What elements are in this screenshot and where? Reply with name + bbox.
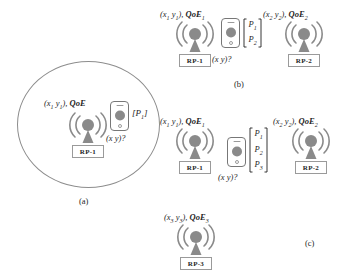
antenna-icon [167, 19, 223, 53]
rp-label-box: RP-1 [179, 54, 211, 67]
phone-screen-dot [115, 111, 125, 121]
rp1-coordinate-qoe-label: (x1 y1), QoE [44, 98, 86, 110]
phone-speaker [227, 22, 234, 23]
rp-node-rp1-c[interactable]: RP-1 [167, 126, 223, 174]
phone-speaker [116, 105, 123, 106]
smartphone-icon[interactable] [110, 101, 129, 131]
qoe-label: QoE [190, 212, 206, 222]
antenna-icon [283, 126, 339, 160]
coord-tail: ), [63, 98, 70, 108]
fingerprint-vector-a: [P1] [132, 108, 148, 120]
rp-node-rp3-c[interactable]: RP-3 [168, 222, 224, 270]
user-device-group-c[interactable] [227, 137, 246, 167]
panel-caption-c: (c) [305, 238, 314, 248]
smartphone-icon[interactable] [221, 18, 240, 48]
coord-x-sub: 1 [51, 104, 54, 110]
antenna-icon [167, 126, 223, 160]
bracket-right-icon [258, 18, 262, 48]
phone-home-button [229, 41, 233, 45]
fingerprint-vector-b: P1 P2 [243, 18, 262, 48]
unknown-position-query-c: (x y)? [218, 172, 238, 182]
rp-label-box: RP-1 [72, 145, 104, 158]
user-device-group-a[interactable] [110, 101, 129, 131]
unknown-position-query-a: (x y)? [106, 133, 126, 143]
rp-label-box: RP-1 [179, 161, 211, 174]
rp-node-rp2-c[interactable]: RP-2 [283, 126, 339, 174]
fingerprint-item: P1 [255, 129, 263, 140]
qoe-label: QoE [186, 9, 202, 19]
qoe-label: QoE [299, 116, 315, 126]
panel-caption-b: (b) [234, 79, 244, 89]
qoe-label: QoE [289, 9, 305, 19]
rp-label-box: RP-2 [288, 54, 320, 67]
coord-x-sub: 2 [270, 15, 273, 21]
fingerprint-item: P2 [255, 145, 263, 156]
coord-x: (x [160, 9, 167, 19]
coord-tail: ), [282, 9, 289, 19]
phone-screen-dot [232, 147, 242, 157]
rp-node-rp2-b[interactable]: RP-2 [276, 19, 332, 67]
coord-x: (x [273, 116, 280, 126]
coord-x: (x [164, 212, 171, 222]
antenna-icon [168, 222, 224, 256]
user-device-group-b[interactable] [221, 18, 240, 48]
bracket-right-icon [264, 127, 268, 173]
fingerprint-item: P2 [249, 35, 257, 46]
fingerprint-vector-c: P1 P2 P3 [249, 127, 268, 173]
phone-home-button [235, 160, 239, 164]
fingerprint-p-sub: 1 [141, 114, 144, 120]
coord-tail: ), [183, 212, 190, 222]
coord-tail: ), [179, 9, 186, 19]
coord-tail: ), [292, 116, 299, 126]
panel-caption-a: (a) [79, 196, 88, 206]
fingerprint-item: P1 [249, 20, 257, 31]
coord-x: (x [44, 98, 51, 108]
fingerprint-item: P3 [255, 160, 263, 171]
unknown-position-query-b: (x y)? [212, 54, 232, 64]
coord-x: (x [160, 116, 167, 126]
phone-home-button [118, 124, 122, 128]
phone-screen-dot [226, 28, 236, 38]
coord-x: (x [263, 9, 270, 19]
qoe-label: QoE [186, 116, 202, 126]
coord-tail: ), [179, 116, 186, 126]
phone-speaker [233, 141, 240, 142]
smartphone-icon[interactable] [227, 137, 246, 167]
rp-label-box: RP-3 [180, 257, 212, 270]
antenna-icon [276, 19, 332, 53]
rp-label-box: RP-2 [295, 161, 327, 174]
qoe-label: QoE [70, 98, 86, 108]
